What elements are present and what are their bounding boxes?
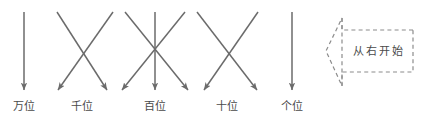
place-label-ten-thousands: 万位 <box>4 99 44 113</box>
arrow-group <box>24 12 292 90</box>
place-label-ones: 个位 <box>272 99 312 113</box>
arrow-diagonal-left-2 <box>58 12 113 90</box>
arrow-diagonal-right-6 <box>197 12 257 90</box>
arrow-diagonal-right-1 <box>57 12 107 90</box>
place-label-hundreds: 百位 <box>135 99 175 113</box>
place-label-thousands: 千位 <box>62 99 102 113</box>
arrow-diagonal-left-7 <box>204 12 258 90</box>
arrow-diagonal-right-3 <box>125 12 188 90</box>
arrow-diagonal-left-5 <box>122 12 185 90</box>
place-value-diagram: 万位 千位 百位 十位 个位 从右开始 <box>0 0 425 126</box>
banner-label: 从右开始 <box>353 44 405 58</box>
place-label-tens: 十位 <box>207 99 247 113</box>
